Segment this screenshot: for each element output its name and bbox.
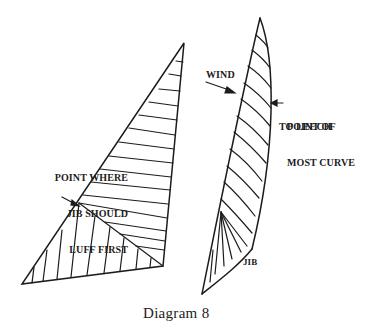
label-line: MOST CURVE (287, 157, 355, 169)
luff-first-label: POINT WHERE JIB SHOULD LUFF FIRST (20, 148, 128, 280)
label-line: LUFF FIRST (20, 244, 128, 256)
label-line: JIB SHOULD (20, 208, 128, 220)
label-line: POINT WHERE (20, 172, 128, 184)
leech-curve-label: POINT OF MOST CURVE (287, 97, 355, 193)
figure-caption: Diagram 8 (143, 305, 209, 322)
wind-arrow (206, 82, 235, 93)
leech-curve-label-line3: TO LEECH (279, 121, 332, 133)
wind-label: WIND (206, 69, 235, 81)
leech-point-arrow (271, 100, 283, 106)
jib-sail (202, 18, 271, 294)
diagram-figure: POINT WHERE JIB SHOULD LUFF FIRST WIND P… (0, 0, 375, 333)
jib-label: JIB (243, 256, 257, 268)
